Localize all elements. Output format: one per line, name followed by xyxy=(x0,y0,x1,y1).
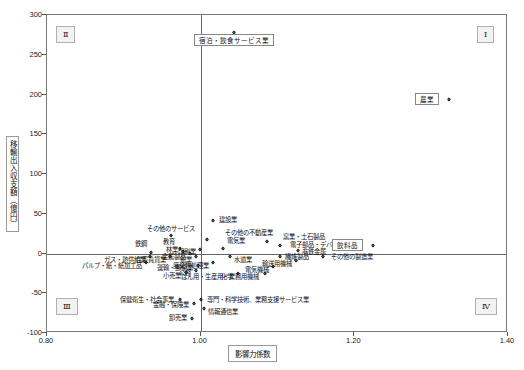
data-point xyxy=(188,250,192,254)
point-label: 専門・科学技術、業務支援サービス業 xyxy=(207,296,309,303)
point-label: はん用・生産用・業務用機械 xyxy=(181,273,259,280)
x-axis-tick-label: 1.40 xyxy=(491,336,523,345)
y-axis-tick-mark xyxy=(42,14,46,15)
point-label: 鉄鋼 xyxy=(135,240,147,247)
plot-area xyxy=(46,14,507,332)
point-label: 農業 xyxy=(415,93,439,105)
y-axis-tick-mark xyxy=(42,94,46,95)
point-label: 水道業 xyxy=(234,256,252,263)
data-point xyxy=(199,296,203,300)
point-label: 金融・保険業 xyxy=(153,301,189,308)
data-point xyxy=(211,258,215,262)
data-point xyxy=(278,252,282,256)
data-point xyxy=(194,253,198,257)
y-axis-tick-mark xyxy=(42,133,46,134)
point-label: 情報通信業 xyxy=(208,308,238,315)
quadrant-badge-i: Ⅰ xyxy=(477,26,494,43)
point-label: 建設業 xyxy=(219,216,237,223)
data-point xyxy=(278,242,282,246)
data-point xyxy=(371,242,375,246)
data-point xyxy=(205,235,209,239)
x-axis-tick-label: 1.00 xyxy=(184,336,216,345)
data-point xyxy=(294,257,298,261)
data-point xyxy=(321,252,325,256)
y-axis-tick-mark xyxy=(42,292,46,293)
data-point xyxy=(271,262,275,266)
data-point xyxy=(190,314,194,318)
y-axis-tick-label: -50 xyxy=(20,288,42,297)
x-axis-title: 影響力係数 xyxy=(228,345,277,362)
data-point xyxy=(168,253,172,257)
data-point xyxy=(232,29,236,33)
x-axis-tick-label: 0.80 xyxy=(30,336,62,345)
quadrant-badge-iv: Ⅳ xyxy=(475,298,497,315)
point-label: その他のサービス xyxy=(147,225,195,232)
y-axis-tick-label: 50 xyxy=(20,209,42,218)
data-point xyxy=(196,262,200,266)
x-axis-tick-mark xyxy=(200,332,201,336)
quadrant-badge-ii: Ⅱ xyxy=(56,26,75,43)
data-point xyxy=(169,231,173,235)
data-point xyxy=(198,246,202,250)
point-label: 電気業 xyxy=(227,237,245,244)
data-point xyxy=(194,266,198,270)
x-axis-tick-mark xyxy=(46,332,47,336)
data-point xyxy=(202,305,206,309)
data-point xyxy=(181,247,185,251)
point-label: その他の製造業 xyxy=(331,253,373,260)
scatter-chart-root: 移輸出入収支額（億円） 影響力係数 300250200150100500-50-… xyxy=(0,0,524,370)
y-axis-tick-label: 250 xyxy=(20,50,42,59)
y-axis-tick-label: 300 xyxy=(20,10,42,19)
y-axis-tick-label: 150 xyxy=(20,129,42,138)
point-label: 窯業・土石製品 xyxy=(283,233,325,240)
point-label: その他の不動産業 xyxy=(225,229,273,236)
data-point xyxy=(144,258,148,262)
horizontal-reference-line xyxy=(47,254,506,255)
y-axis-tick-mark xyxy=(42,54,46,55)
x-axis-tick-mark xyxy=(507,332,508,336)
point-label: 教育 xyxy=(163,238,175,245)
point-label: 小売業 xyxy=(163,272,181,279)
data-point xyxy=(228,253,232,257)
y-axis-tick-mark xyxy=(42,213,46,214)
y-axis-tick-label: 100 xyxy=(20,169,42,178)
data-point xyxy=(265,238,269,242)
vertical-reference-line xyxy=(201,15,202,331)
y-axis-tick-mark xyxy=(42,173,46,174)
data-point xyxy=(149,248,153,252)
quadrant-badge-iii: Ⅲ xyxy=(56,298,78,315)
data-point xyxy=(447,95,451,99)
point-label: パルプ・紙・紙加工品 xyxy=(82,262,142,269)
data-point xyxy=(211,216,215,220)
y-axis-title: 移輸出入収支額（億円） xyxy=(6,136,19,232)
point-label: 宿泊・飲食サービス業 xyxy=(194,34,274,46)
y-axis-tick-label: 0 xyxy=(20,249,42,258)
y-axis-tick-mark xyxy=(42,253,46,254)
data-point xyxy=(178,296,182,300)
data-point xyxy=(296,247,300,251)
point-label: 卸売業 xyxy=(169,314,187,321)
y-axis-tick-label: 200 xyxy=(20,90,42,99)
data-point xyxy=(192,299,196,303)
x-axis-tick-label: 1.20 xyxy=(337,336,369,345)
point-label: 飲料品 xyxy=(332,239,363,251)
data-point xyxy=(263,270,267,274)
x-axis-tick-mark xyxy=(353,332,354,336)
data-point xyxy=(221,244,225,248)
